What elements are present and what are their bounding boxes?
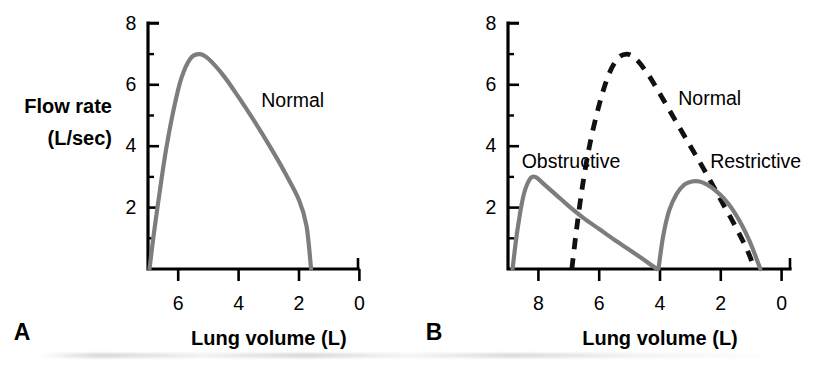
curve-restrictive <box>658 181 760 269</box>
y-tick-label-4: 4 <box>486 134 497 156</box>
x-tick-label-6: 6 <box>594 292 605 314</box>
y-tick-label-2: 2 <box>486 196 497 218</box>
panel-letter-b: B <box>426 319 443 345</box>
y-tick-label-4: 4 <box>126 134 137 156</box>
x-tick-label-6: 6 <box>173 292 184 314</box>
y-tick-label-8: 8 <box>126 12 137 34</box>
curve-label-obstructive: Obstructive <box>522 150 621 172</box>
x-tick-label-4: 4 <box>655 292 666 314</box>
y-tick-label-6: 6 <box>486 73 497 95</box>
y-tick-label-8: 8 <box>486 12 497 34</box>
x-axis-title: Lung volume (L) <box>582 327 738 349</box>
y-axis-title-line1: Flow rate <box>24 95 112 117</box>
curve-label-restrictive: Restrictive <box>710 150 801 172</box>
y-tick-label-2: 2 <box>126 196 137 218</box>
curve-obstructive <box>513 177 657 269</box>
curve-label-normal: Normal <box>678 87 741 109</box>
x-axis-title: Lung volume (L) <box>191 327 347 349</box>
y-tick-label-6: 6 <box>126 73 137 95</box>
curve-label-normal: Normal <box>261 89 324 111</box>
x-tick-label-2: 2 <box>294 292 305 314</box>
scan-artifact-line <box>40 353 780 358</box>
curve-normal <box>150 54 312 269</box>
panel-letter-a: A <box>14 319 31 345</box>
x-tick-label-8: 8 <box>533 292 544 314</box>
x-tick-label-4: 4 <box>233 292 244 314</box>
x-tick-label-0: 0 <box>776 292 787 314</box>
x-tick-label-0: 0 <box>354 292 365 314</box>
panel-a: 86426420NormalLung volume (L)Flow rate(L… <box>0 0 410 366</box>
x-tick-label-2: 2 <box>715 292 726 314</box>
axes <box>148 23 358 269</box>
panel-b: 864286420ObstructiveNormalRestrictiveLun… <box>410 0 820 366</box>
y-axis-title-line2: (L/sec) <box>48 127 112 149</box>
flow-volume-loop-figure: 86426420NormalLung volume (L)Flow rate(L… <box>0 0 820 366</box>
panel-a-plot: 86426420NormalLung volume (L)Flow rate(L… <box>0 0 410 366</box>
panel-b-plot: 864286420ObstructiveNormalRestrictiveLun… <box>410 0 820 366</box>
